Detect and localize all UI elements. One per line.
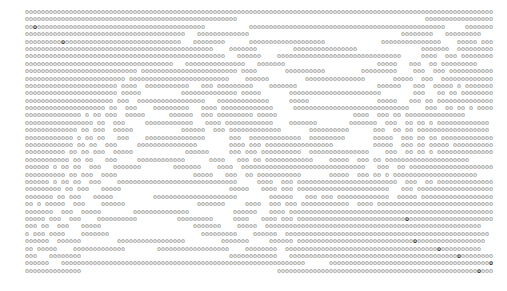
ascii-pattern-block: oooooooooooooooooooooooooooooooooooooooo… bbox=[25, 9, 493, 275]
pattern-row: oooooooooooooo ooooooooooooooooooooooooo… bbox=[25, 268, 493, 275]
highlighted-glyph: o bbox=[413, 237, 417, 245]
highlighted-glyph: o bbox=[477, 267, 481, 275]
